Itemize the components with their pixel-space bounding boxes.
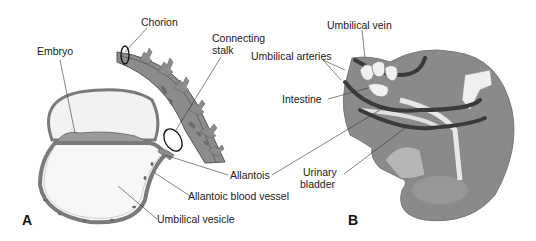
panel-letter-b: B [348,212,358,228]
label-embryo: Embryo [37,45,73,57]
label-allantois: Allantois [230,169,270,181]
label-umbilical-vesicle: Umbilical vesicle [157,213,235,225]
label-chorion: Chorion [141,16,178,28]
panel-letter-a: A [22,212,32,228]
label-urinary-bladder-line1: Urinary [303,166,337,178]
label-umbilical-arteries: Umbilical arteries [251,50,332,62]
label-connecting-stalk-line1: Connecting [212,32,265,44]
label-allantoic-blood-vessel: Allantoic blood vessel [188,190,289,202]
label-urinary-bladder-line2: bladder [300,178,335,190]
diagram-canvas [0,0,536,241]
label-connecting-stalk-line2: stalk [212,44,234,56]
label-umbilical-vein: Umbilical vein [327,19,392,31]
label-intestine: Intestine [282,93,322,105]
umbilical-vesicle [40,143,165,222]
